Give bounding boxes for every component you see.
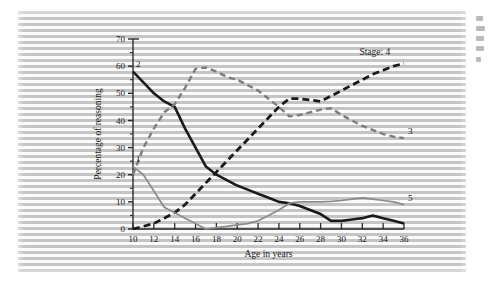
y-tick-label: 20 [116, 170, 126, 180]
page-bleed-fragments [472, 14, 494, 62]
labels-group: 2315Stage: 4 [136, 47, 413, 202]
y-tick-label: 50 [116, 88, 126, 98]
series-label-2: 2 [136, 59, 141, 69]
x-tick-label: 14 [170, 234, 180, 244]
y-tick-label: 70 [116, 34, 126, 44]
series-label-5: 5 [408, 193, 413, 203]
y-axis-title: Percentage of reasoning [93, 88, 103, 180]
series-line-2 [133, 72, 404, 224]
x-tick-label: 28 [316, 234, 326, 244]
x-tick-label: 30 [337, 234, 347, 244]
series-label-1: 1 [136, 154, 141, 164]
series-group [133, 63, 404, 229]
series-line-5 [206, 198, 404, 229]
series-label-3: 3 [408, 126, 413, 136]
axes-group: 0102030405060701012141618202224262830323… [116, 34, 409, 244]
x-tick-label: 16 [191, 234, 201, 244]
x-axis-title: Age in years [244, 249, 292, 259]
bleed-fragment [476, 16, 483, 21]
line-chart: 0102030405060701012141618202224262830323… [0, 0, 494, 289]
x-tick-label: 26 [295, 234, 305, 244]
series-line-4 [133, 63, 404, 229]
x-tick-label: 34 [379, 234, 389, 244]
series-line-3 [133, 68, 404, 175]
x-tick-label: 36 [400, 234, 410, 244]
bleed-fragment [476, 26, 485, 31]
x-tick-label: 20 [233, 234, 243, 244]
y-tick-label: 10 [116, 197, 126, 207]
x-tick-label: 24 [274, 234, 284, 244]
y-tick-label: 0 [121, 224, 126, 234]
y-tick-label: 60 [116, 61, 126, 71]
y-tick-label: 30 [116, 143, 126, 153]
bleed-fragment [476, 36, 484, 41]
figure-root: 0102030405060701012141618202224262830323… [0, 0, 494, 289]
bleed-fragment [476, 46, 484, 51]
x-tick-label: 12 [149, 234, 158, 244]
y-tick-label: 40 [116, 116, 126, 126]
stage-annotation: Stage: 4 [359, 47, 390, 57]
x-tick-label: 10 [129, 234, 139, 244]
x-tick-label: 18 [212, 234, 222, 244]
x-tick-label: 32 [358, 234, 367, 244]
bleed-fragment [476, 57, 481, 62]
series-line-1 [133, 167, 206, 229]
x-tick-label: 22 [254, 234, 263, 244]
